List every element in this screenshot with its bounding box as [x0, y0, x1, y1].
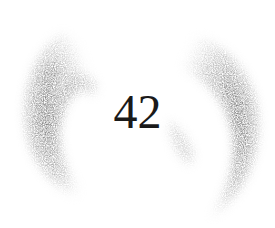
page-number-ornament: 42 [0, 0, 275, 228]
page-number: 42 [0, 88, 275, 136]
